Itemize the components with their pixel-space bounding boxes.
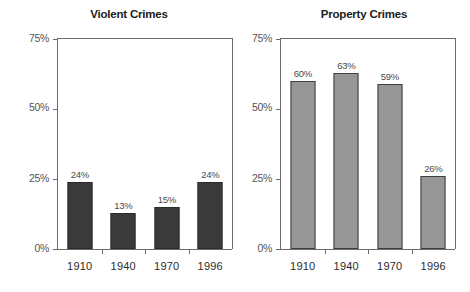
y-tick-label-0: 0%	[257, 242, 272, 254]
chart-title-violent-crimes: Violent Crimes	[0, 8, 236, 20]
bar-value-1940: 63%	[337, 60, 355, 71]
y-tick-label-75: 75%	[252, 32, 272, 44]
bar-value-1970: 59%	[381, 71, 399, 82]
bar-slot-1970: 15% 1970	[145, 39, 189, 249]
bar-slot-1996: 24% 1996	[189, 39, 233, 249]
bar-1996[interactable]	[198, 182, 223, 249]
y-tick-mark-0	[276, 249, 281, 250]
bar-series-property-crimes: 60% 1910 63% 1940 59% 1970 2	[281, 39, 455, 249]
bar-slot-1940: 13% 1940	[102, 39, 146, 249]
x-tick-mark-2	[145, 249, 146, 254]
x-label-1940: 1940	[334, 260, 359, 272]
bar-series-violent-crimes: 24% 1910 13% 1940 15% 1970 2	[58, 39, 232, 249]
y-tick-label-50: 50%	[252, 101, 272, 113]
x-tick-mark-1	[102, 249, 103, 254]
y-tick-label-0: 0%	[34, 242, 49, 254]
bar-1996[interactable]	[421, 176, 446, 249]
bar-value-1996: 24%	[201, 169, 219, 180]
chart-title-property-crimes: Property Crimes	[234, 8, 470, 20]
bar-slot-1910: 24% 1910	[58, 39, 102, 249]
figure-two-bar-charts: Violent Crimes 0% 25% 50% 75%	[0, 0, 470, 292]
x-label-1970: 1970	[377, 260, 402, 272]
chart-panel-violent-crimes: Violent Crimes 0% 25% 50% 75%	[0, 0, 236, 292]
x-tick-mark-3	[189, 249, 190, 254]
bar-value-1910: 60%	[294, 68, 312, 79]
plot-area-property-crimes: 0% 25% 50% 75% 60% 1910	[280, 38, 456, 249]
y-tick-label-50: 50%	[29, 101, 49, 113]
plot-area-violent-crimes: 0% 25% 50% 75% 24% 1910	[57, 38, 233, 249]
y-tick-label-25: 25%	[29, 172, 49, 184]
x-tick-mark-2	[368, 249, 369, 254]
x-tick-mark-3	[412, 249, 413, 254]
bar-1940[interactable]	[111, 213, 136, 249]
bar-1910[interactable]	[67, 182, 92, 249]
bar-slot-1940: 63% 1940	[325, 39, 369, 249]
bar-value-1996: 26%	[424, 163, 442, 174]
bar-slot-1910: 60% 1910	[281, 39, 325, 249]
bar-value-1910: 24%	[71, 169, 89, 180]
bar-value-1970: 15%	[158, 194, 176, 205]
y-tick-label-75: 75%	[29, 32, 49, 44]
x-label-1996: 1996	[198, 260, 223, 272]
bar-1970[interactable]	[377, 84, 402, 249]
y-tick-label-25: 25%	[252, 172, 272, 184]
bar-1910[interactable]	[290, 81, 315, 249]
bar-value-1940: 13%	[114, 200, 132, 211]
x-label-1996: 1996	[421, 260, 446, 272]
bar-slot-1970: 59% 1970	[368, 39, 412, 249]
x-label-1940: 1940	[111, 260, 136, 272]
bar-1970[interactable]	[154, 207, 179, 249]
x-label-1910: 1910	[290, 260, 315, 272]
chart-panel-property-crimes: Property Crimes 0% 25% 50% 75%	[234, 0, 470, 292]
y-tick-mark-0	[53, 249, 58, 250]
x-label-1910: 1910	[67, 260, 92, 272]
x-label-1970: 1970	[154, 260, 179, 272]
x-tick-mark-1	[325, 249, 326, 254]
bar-slot-1996: 26% 1996	[412, 39, 456, 249]
bar-1940[interactable]	[334, 73, 359, 249]
